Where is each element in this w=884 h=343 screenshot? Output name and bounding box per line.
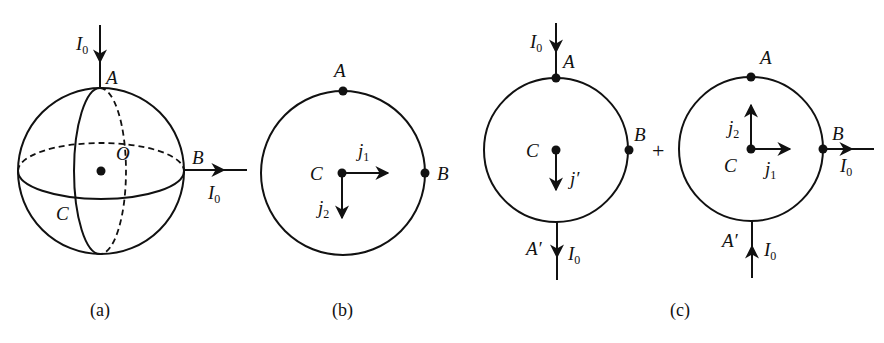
label-j2: j2 [725,117,739,141]
panel-c-right-circle: A B I0 C j1 j2 A′ I0 [679,47,874,278]
point-a-dot [552,74,561,83]
point-b-dot [625,146,634,155]
point-a-dot [339,87,348,96]
label-a: A [561,51,575,72]
label-c: C [526,140,539,161]
panel-a-sphere: O I0 A B I0 C (a) [18,25,247,321]
label-a: A [758,47,772,68]
label-a: A [104,67,118,88]
caption-c: (c) [670,300,690,321]
label-a-prime: A′ [524,238,543,259]
label-b: B [192,147,204,168]
label-j1: j1 [355,140,369,164]
figure: O I0 A B I0 C (a) A B C j1 j2 (b) I0 [0,0,884,343]
point-a-dot [747,73,756,82]
panel-b-circle: A B C j1 j2 (b) [261,60,449,321]
label-i0-out: I0 [207,182,220,206]
label-b: B [832,123,844,144]
label-i0-out: I0 [839,155,852,179]
label-j2: j2 [315,197,329,221]
label-a: A [332,60,346,81]
label-o: O [116,143,130,164]
label-c: C [310,163,323,184]
label-a-prime: A′ [720,230,739,251]
meridian-front [74,88,100,254]
label-i0-in: I0 [529,31,542,55]
label-i0-in: I0 [75,33,88,57]
caption-b: (b) [332,300,353,321]
label-b: B [634,124,646,145]
label-j1: j1 [762,158,776,182]
label-b: B [437,163,449,184]
label-i0-out: I0 [567,243,580,267]
caption-a: (a) [90,300,110,321]
label-c: C [56,203,69,224]
label-i0-in: I0 [763,239,776,263]
center-dot-o [97,167,106,176]
panel-c-left-circle: I0 A B C j′ A′ I0 [484,23,646,280]
label-c: C [724,155,737,176]
point-b-dot [421,169,430,178]
label-j-prime: j′ [567,168,580,189]
plus-operator: + [652,138,664,163]
